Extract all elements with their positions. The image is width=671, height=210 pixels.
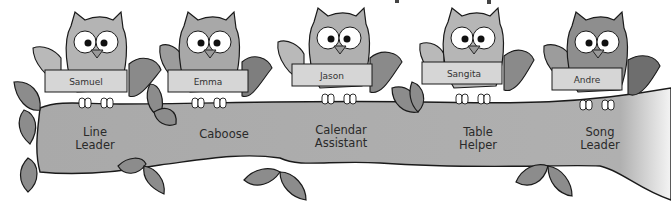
- helper-name: Andre: [574, 75, 601, 85]
- job-label-line1: Caboose: [199, 128, 249, 141]
- leaf-cluster-left: [14, 82, 40, 192]
- helper-name: Emma: [194, 77, 223, 87]
- job-label-song-leader: Song Leader: [580, 126, 619, 152]
- owl-samuel: [33, 12, 161, 108]
- classroom-helpers-scene: Samuel Emma Jason Sangita Andre: [0, 0, 671, 210]
- job-label-table-helper: Table Helper: [459, 126, 497, 152]
- title-fragment: [487, 0, 491, 4]
- title-fragment: [395, 0, 399, 3]
- job-label-caboose: Caboose: [199, 128, 249, 141]
- job-label-line2: Leader: [75, 139, 114, 152]
- owl-sangita: [420, 8, 534, 104]
- helper-name: Sangita: [447, 69, 481, 79]
- helper-name: Samuel: [69, 77, 103, 87]
- leaf-cluster-right: [516, 165, 572, 196]
- job-label-line-leader: Line Leader: [75, 126, 114, 152]
- job-label-line2: Assistant: [315, 137, 367, 150]
- helper-name: Jason: [319, 71, 344, 81]
- job-label-line2: Helper: [459, 139, 497, 152]
- leaf-cluster-center: [118, 158, 306, 200]
- owl-emma: [160, 12, 272, 108]
- job-label-line2: Leader: [580, 139, 619, 152]
- job-label-calendar-assistant: Calendar Assistant: [315, 124, 367, 150]
- owl-jason: [278, 8, 402, 104]
